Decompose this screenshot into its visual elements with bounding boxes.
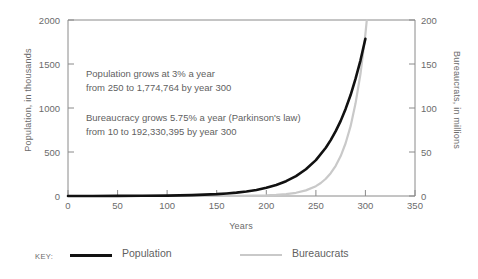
legend-title: KEY:: [35, 252, 53, 261]
y-axis-left-ticks: [68, 20, 74, 196]
x-axis-title: Years: [191, 221, 291, 231]
chart-legend: KEY: Population Bureaucrats: [0, 246, 478, 270]
legend-label-population: Population: [122, 247, 172, 259]
x-axis-tick-350: 350: [395, 200, 435, 211]
plot-area: [0, 0, 478, 279]
x-axis-tick-150: 150: [197, 200, 237, 211]
annotation-bureaucracy-line-1: Bureaucracy grows 5.75% a year (Parkinso…: [86, 111, 301, 125]
annotation-population-note: Population grows at 3% a year from 250 t…: [86, 67, 231, 94]
legend-swatch-population-icon: [70, 254, 112, 257]
x-axis-tick-300: 300: [345, 200, 385, 211]
x-axis-tick-200: 200: [246, 200, 286, 211]
legend-label-bureaucrats: Bureaucrats: [292, 247, 349, 259]
annotation-bureaucracy-note: Bureaucracy grows 5.75% a year (Parkinso…: [86, 111, 301, 138]
series-line-bureaucrats: [68, 20, 367, 196]
annotation-population-line-2: from 250 to 1,774,764 by year 300: [86, 81, 231, 95]
y-axis-left-title: Population, in thousands: [23, 25, 33, 175]
x-axis-tick-100: 100: [147, 200, 187, 211]
exponential-growth-chart: 2000 1500 1000 500 0 200 150 100 50 0 0 …: [0, 0, 478, 279]
annotation-bureaucracy-line-2: from 10 to 192,330,395 by year 300: [86, 125, 301, 139]
annotation-population-line-1: Population grows at 3% a year: [86, 67, 231, 81]
y-axis-right-title: Bureaucrats, in millions: [452, 25, 462, 175]
x-axis-tick-0: 0: [48, 200, 88, 211]
x-axis-tick-250: 250: [296, 200, 336, 211]
legend-swatch-bureaucrats-icon: [240, 254, 282, 256]
y-axis-right-ticks: [409, 20, 415, 196]
x-axis-tick-50: 50: [98, 200, 138, 211]
